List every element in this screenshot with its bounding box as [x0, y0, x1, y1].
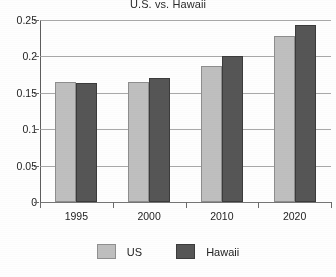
x-axis-label-2020: 2020 — [265, 210, 325, 223]
chart-legend: USHawaii — [0, 244, 336, 259]
bar-group — [55, 20, 97, 202]
y-axis-tick-label: 0 — [3, 197, 37, 207]
legend-label: US — [127, 246, 142, 258]
y-axis-tick-label: 0.05 — [3, 161, 37, 171]
bar-hawaii-2010[interactable] — [222, 56, 243, 202]
chart-title: U.S. vs. Hawaii — [0, 0, 336, 11]
y-axis-tick-label: 0.2 — [3, 51, 37, 61]
y-axis-tick-label: 0.1 — [3, 124, 37, 134]
bar-group — [128, 20, 170, 202]
legend-swatch-icon-hawaii — [176, 244, 195, 259]
x-axis-tick-mark — [331, 202, 332, 208]
y-axis-tick-mark — [34, 93, 39, 94]
legend-label: Hawaii — [206, 246, 239, 258]
bar-hawaii-1995[interactable] — [76, 83, 97, 202]
bar-us-2010[interactable] — [201, 66, 222, 202]
y-axis-tick-mark — [34, 202, 39, 203]
plot-area — [40, 20, 331, 202]
bar-group — [201, 20, 243, 202]
y-axis-tick-mark — [34, 20, 39, 21]
x-axis-label-2010: 2010 — [192, 210, 252, 223]
bar-hawaii-2020[interactable] — [295, 25, 316, 202]
bar-chart: U.S. vs. Hawaii 00.050.10.150.20.25 USHa… — [0, 0, 336, 277]
x-axis-tick-mark — [258, 202, 259, 208]
legend-swatch-icon-us — [97, 244, 116, 259]
x-axis-tick-mark — [40, 202, 41, 208]
x-axis-label-1995: 1995 — [46, 210, 106, 223]
bar-hawaii-2000[interactable] — [149, 78, 170, 202]
y-axis-tick-label: 0.25 — [3, 15, 37, 25]
x-axis-tick-mark — [186, 202, 187, 208]
legend-item-us[interactable]: US — [97, 244, 142, 259]
y-axis-tick-mark — [34, 166, 39, 167]
y-axis-tick-mark — [34, 129, 39, 130]
bar-us-2000[interactable] — [128, 82, 149, 202]
bar-us-2020[interactable] — [274, 36, 295, 202]
bars-layer — [40, 20, 331, 202]
bar-us-1995[interactable] — [55, 82, 76, 202]
y-axis-ticks: 00.050.10.150.20.25 — [0, 20, 37, 202]
legend-item-hawaii[interactable]: Hawaii — [176, 244, 239, 259]
y-axis-tick-label: 0.15 — [3, 88, 37, 98]
bar-group — [274, 20, 316, 202]
x-axis-tick-mark — [113, 202, 114, 208]
x-axis-label-2000: 2000 — [119, 210, 179, 223]
y-axis-tick-mark — [34, 56, 39, 57]
